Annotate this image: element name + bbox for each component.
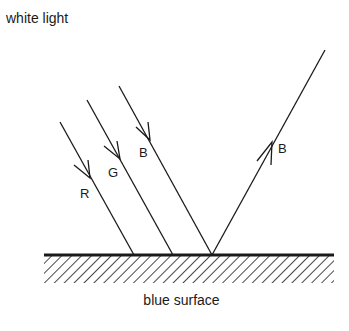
surface-caption: blue surface (0, 292, 349, 308)
incident-ray-green (87, 100, 173, 255)
arrow-head-icon (136, 122, 150, 140)
label-green-ray: G (108, 165, 118, 180)
reflection-diagram: R G B B (0, 0, 349, 331)
label-blue-incident-ray: B (139, 145, 148, 160)
label-red-ray: R (80, 186, 89, 201)
incident-ray-blue (119, 86, 212, 255)
arrow-head-icon (257, 142, 272, 165)
surface-hatching (44, 256, 334, 283)
incident-ray-red (60, 122, 134, 255)
label-blue-reflected-ray: B (278, 141, 287, 156)
reflected-ray-blue (212, 50, 325, 255)
arrow-head-icon (104, 141, 120, 159)
